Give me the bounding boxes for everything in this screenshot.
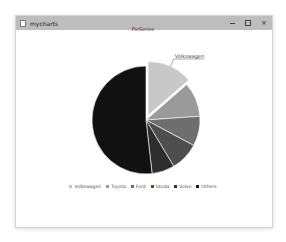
legend-label: Volkswagen bbox=[74, 184, 101, 189]
legend-swatch-icon bbox=[131, 185, 134, 188]
chart-title: PieSeries bbox=[0, 26, 286, 32]
chart-view: Volkswagen bbox=[16, 30, 272, 227]
legend-item-toyota[interactable]: Toyota bbox=[106, 184, 126, 189]
legend-item-ford[interactable]: Ford bbox=[131, 184, 146, 189]
minimize-icon bbox=[230, 23, 235, 24]
app-window: mycharts × Volkswagen bbox=[15, 15, 273, 228]
legend-swatch-icon bbox=[174, 185, 177, 188]
legend-item-volvo[interactable]: Volvo bbox=[174, 184, 191, 189]
legend-item-skoda[interactable]: Skoda bbox=[151, 184, 170, 189]
legend-item-others[interactable]: Others bbox=[196, 184, 216, 189]
legend-label: Volvo bbox=[179, 184, 191, 189]
legend-swatch-icon bbox=[69, 185, 72, 188]
legend-label: Toyota bbox=[111, 184, 126, 189]
legend-label: Skoda bbox=[156, 184, 170, 189]
legend-swatch-icon bbox=[106, 185, 109, 188]
legend-item-volkswagen[interactable]: Volkswagen bbox=[69, 184, 101, 189]
pie-slice-others[interactable] bbox=[92, 66, 152, 174]
legend-swatch-icon bbox=[196, 185, 199, 188]
legend-label: Others bbox=[201, 184, 216, 189]
legend-label: Ford bbox=[136, 184, 146, 189]
chart-legend: VolkswagenToyotaFordSkodaVolvoOthers bbox=[0, 184, 286, 189]
legend-swatch-icon bbox=[151, 185, 154, 188]
slice-label-connector bbox=[170, 59, 203, 66]
slice-label-volkswagen: Volkswagen bbox=[175, 53, 205, 60]
pie-chart: Volkswagen bbox=[16, 30, 272, 227]
